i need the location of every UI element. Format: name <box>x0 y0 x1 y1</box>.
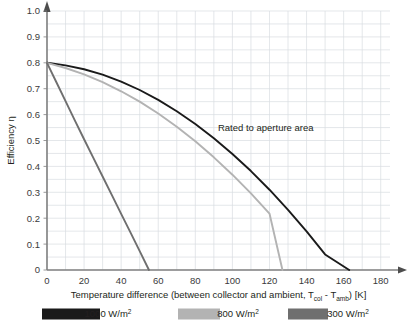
x-tick-label: 0 <box>44 275 49 286</box>
x-tick-label: 180 <box>373 275 389 286</box>
y-tick-label: 0.9 <box>27 31 40 42</box>
y-tick-label: 1.0 <box>27 5 40 16</box>
y-tick-label: 0.5 <box>27 135 40 146</box>
x-axis-arrow <box>398 266 407 273</box>
y-axis-arrow <box>43 1 50 12</box>
efficiency-chart: 00.10.20.30.40.50.60.70.80.91.0020406080… <box>0 0 409 330</box>
y-tick-label: 0.4 <box>27 161 40 172</box>
legend: 1000 W/m2800 W/m2300 W/m2 <box>42 308 369 320</box>
x-tick-label: 100 <box>224 275 240 286</box>
x-tick-label: 80 <box>190 275 201 286</box>
y-tick-label: 0.1 <box>27 239 40 250</box>
y-tick-label: 0.2 <box>27 213 40 224</box>
y-tick-label: 0.3 <box>27 187 40 198</box>
y-axis-title: Efficiency η <box>5 116 16 164</box>
x-axis-title: Temperature difference (between collecto… <box>71 289 367 302</box>
y-tick-label: 0.6 <box>27 109 40 120</box>
y-tick-labels: 00.10.20.30.40.50.60.70.80.91.0 <box>27 5 47 275</box>
legend-label: 800 W/m2 <box>217 308 259 320</box>
legend-swatch <box>178 309 220 320</box>
gridlines <box>47 11 390 270</box>
legend-label: 1000 W/m2 <box>85 308 132 320</box>
legend-swatch <box>288 309 328 320</box>
x-tick-label: 20 <box>79 275 90 286</box>
x-tick-label: 140 <box>299 275 315 286</box>
y-tick-label: 0.7 <box>27 83 40 94</box>
x-tick-label: 160 <box>336 275 352 286</box>
chart-svg: 00.10.20.30.40.50.60.70.80.91.0020406080… <box>0 0 409 330</box>
legend-label: 300 W/m2 <box>327 308 369 320</box>
y-tick-label: 0 <box>35 264 40 275</box>
x-tick-label: 40 <box>116 275 127 286</box>
x-tick-label: 120 <box>262 275 278 286</box>
chart-annotation: Rated to aperture area <box>218 122 314 133</box>
y-tick-label: 0.8 <box>27 57 40 68</box>
x-tick-labels: 020406080100120140160180 <box>44 275 388 286</box>
x-tick-label: 60 <box>153 275 164 286</box>
